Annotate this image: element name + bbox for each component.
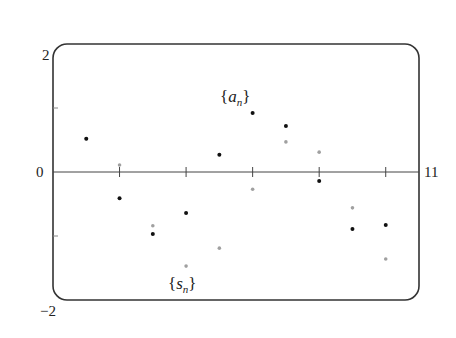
point-a xyxy=(251,111,255,115)
point-s xyxy=(384,257,388,261)
point-s xyxy=(251,187,255,191)
point-a xyxy=(384,223,388,227)
series-label-s: {sn} xyxy=(168,274,196,295)
point-a xyxy=(284,124,288,128)
point-a xyxy=(84,137,88,141)
sequence-plot: 2 0 −2 11 {an} {sn} xyxy=(0,0,456,338)
point-s xyxy=(184,264,188,268)
point-s xyxy=(218,246,222,250)
point-a xyxy=(118,196,122,200)
y-min-label: −2 xyxy=(40,303,56,319)
y-zero-label: 0 xyxy=(36,164,44,180)
point-a xyxy=(317,179,321,183)
point-s xyxy=(151,224,155,228)
x-max-label: 11 xyxy=(424,164,438,180)
data-points xyxy=(84,111,387,268)
point-s xyxy=(317,150,321,154)
point-a xyxy=(217,153,221,157)
point-s xyxy=(118,163,122,167)
point-a xyxy=(350,227,354,231)
point-a xyxy=(184,211,188,215)
series-label-a: {an} xyxy=(220,87,250,108)
point-s xyxy=(351,206,355,210)
point-a xyxy=(151,232,155,236)
y-max-label: 2 xyxy=(42,47,50,63)
point-s xyxy=(284,140,288,144)
